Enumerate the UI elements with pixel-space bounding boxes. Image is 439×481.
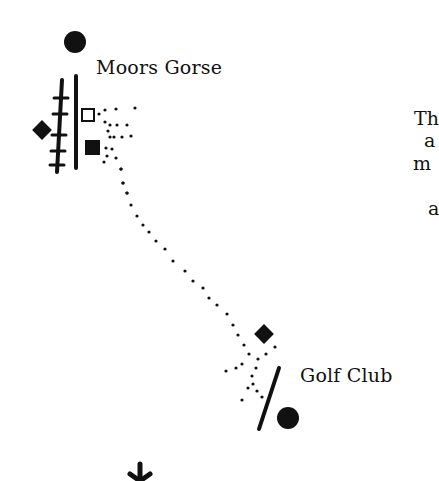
station-label-moors-gorse: Moors Gorse [96,56,222,78]
side-text-fragment: Th [414,107,439,129]
side-text-fragment: a [428,197,439,219]
asterisk-icon [130,464,150,481]
diamond-icon [254,324,274,344]
golf-club-station-marker [277,407,299,429]
railway-track-icon [50,80,68,172]
open-square-icon [82,109,94,121]
side-text-fragment: a [424,129,435,151]
filled-square-icon [85,140,100,155]
moors-gorse-station-marker [64,31,86,53]
diamond-icon [32,120,52,140]
side-text-fragment: m [413,152,431,174]
route-dotted-path-icon [119,167,250,355]
footpath-dots-icon [97,106,136,194]
station-label-golf-club: Golf Club [300,364,393,386]
